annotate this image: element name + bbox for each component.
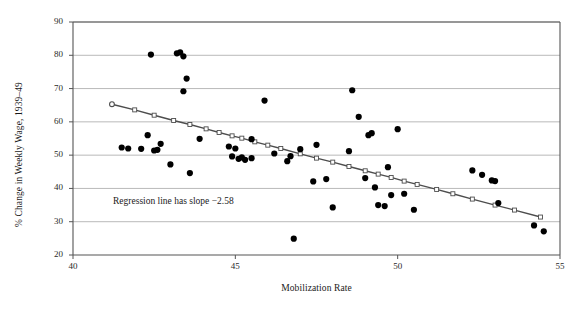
data-point [138, 146, 144, 152]
regression-marker [217, 131, 221, 135]
regression-marker [451, 192, 455, 196]
y-tick-label-40: 40 [39, 182, 63, 192]
data-point [148, 52, 154, 58]
data-point [180, 88, 186, 94]
scatter-plot-figure: % Change in Weekly Wage, 1939–49 Mobiliz… [0, 0, 584, 309]
data-point [187, 170, 193, 176]
data-point [248, 155, 254, 161]
data-point [362, 175, 368, 181]
data-point [356, 114, 362, 120]
data-point [330, 204, 336, 210]
data-point [346, 148, 352, 154]
data-point [388, 192, 394, 198]
data-point [323, 176, 329, 182]
regression-marker [133, 108, 137, 112]
regression-marker [279, 146, 283, 150]
regression-marker [230, 134, 234, 138]
regression-marker [172, 119, 176, 123]
data-point [229, 153, 235, 159]
y-tick-label-70: 70 [39, 83, 63, 93]
data-point [401, 191, 407, 197]
data-point [226, 143, 232, 149]
data-point [310, 178, 316, 184]
x-axis-title: Mobilization Rate [73, 283, 560, 293]
tick-marks-group [69, 22, 560, 259]
data-point [242, 157, 248, 163]
y-axis-title: % Change in Weekly Wage, 1939–49 [8, 0, 30, 309]
gridlines-group [73, 22, 560, 222]
regression-marker [331, 160, 335, 164]
data-point [291, 236, 297, 242]
data-point [375, 202, 381, 208]
regression-marker [110, 102, 115, 107]
data-point [382, 203, 388, 209]
data-point [495, 200, 501, 206]
regression-marker [415, 182, 419, 186]
data-point [125, 145, 131, 151]
data-point [411, 207, 417, 213]
regression-marker [470, 197, 474, 201]
y-tick-label-60: 60 [39, 116, 63, 126]
data-point [232, 145, 238, 151]
data-points-group [119, 49, 547, 242]
data-point [479, 172, 485, 178]
data-point [372, 184, 378, 190]
y-tick-label-80: 80 [39, 49, 63, 59]
data-point [154, 147, 160, 153]
regression-marker [315, 156, 319, 160]
x-tick-label-55: 55 [545, 261, 575, 271]
regression-marker [266, 143, 270, 147]
data-point [395, 126, 401, 132]
x-tick-label-45: 45 [220, 261, 250, 271]
regression-marker [347, 164, 351, 168]
regression-marker [513, 208, 517, 212]
data-point [492, 178, 498, 184]
data-point [180, 53, 186, 59]
y-tick-label-30: 30 [39, 216, 63, 226]
data-point [369, 130, 375, 136]
data-point [158, 141, 164, 147]
data-point [531, 222, 537, 228]
data-point [297, 146, 303, 152]
data-point [145, 132, 151, 138]
data-point [119, 144, 125, 150]
y-tick-label-90: 90 [39, 16, 63, 26]
data-point [197, 136, 203, 142]
regression-marker [363, 169, 367, 173]
regression-marker [435, 187, 439, 191]
regression-marker [539, 215, 543, 219]
regression-marker [389, 175, 393, 179]
regression-marker [152, 113, 156, 117]
y-tick-label-20: 20 [39, 249, 63, 259]
x-tick-label-50: 50 [383, 261, 413, 271]
axes-group [73, 22, 560, 255]
regression-marker [188, 123, 192, 127]
data-point [248, 136, 254, 142]
regression-marker [402, 179, 406, 183]
regression-marker [204, 127, 208, 131]
regression-marker [240, 136, 244, 140]
data-point [271, 150, 277, 156]
data-point [349, 87, 355, 93]
data-point [167, 161, 173, 167]
regression-marker [298, 152, 302, 156]
regression-marker [376, 172, 380, 176]
data-point [313, 142, 319, 148]
y-tick-label-50: 50 [39, 149, 63, 159]
data-point [287, 153, 293, 159]
data-point [261, 97, 267, 103]
data-point [469, 167, 475, 173]
regression-slope-annotation: Regression line has slope −2.58 [113, 196, 234, 206]
x-tick-label-40: 40 [58, 261, 88, 271]
data-point [541, 228, 547, 234]
data-point [385, 164, 391, 170]
data-point [184, 75, 190, 81]
